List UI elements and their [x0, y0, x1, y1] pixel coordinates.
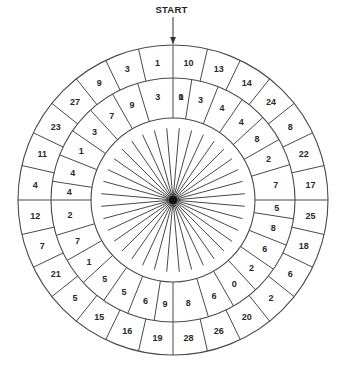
outer-ring-number: 3: [125, 64, 130, 74]
outer-ring-number: 4: [33, 180, 38, 190]
outer-ring-number: 10: [183, 58, 193, 68]
middle-ring-number: 9: [129, 100, 134, 110]
middle-ring-number: 2: [68, 210, 73, 220]
number-wheel-diagram: 1013142482217251862202628191615521712411…: [0, 0, 343, 370]
outer-ring-number: 11: [38, 149, 48, 159]
middle-ring-number: 6: [262, 244, 267, 254]
middle-ring-number: 4: [70, 168, 75, 178]
middle-ring-number: 1: [79, 146, 84, 156]
middle-ring-number: 8: [254, 134, 259, 144]
middle-ring-number: 3: [155, 92, 160, 102]
outer-ring-number: 1: [155, 58, 160, 68]
outer-ring-number: 25: [306, 211, 316, 221]
outer-ring-number: 14: [242, 78, 252, 88]
outer-ring-number: 17: [306, 180, 316, 190]
middle-ring-number: 1: [87, 257, 92, 267]
middle-ring-number: 5: [274, 203, 279, 213]
middle-ring-number: 5: [121, 287, 126, 297]
outer-ring-number: 21: [51, 269, 61, 279]
outer-ring-number: 12: [30, 211, 40, 221]
outer-ring-number: 26: [214, 326, 224, 336]
middle-ring-number: 6: [143, 296, 148, 306]
middle-ring-number: 2: [266, 154, 271, 164]
middle-ring-number: 0: [232, 279, 237, 289]
outer-ring-number: 24: [266, 97, 276, 107]
start-arrow-icon: [170, 17, 176, 44]
middle-ring-number: 1: [179, 92, 184, 102]
outer-ring-number: 22: [299, 149, 309, 159]
middle-ring-number: 4: [67, 187, 72, 197]
outer-ring-number: 23: [51, 122, 61, 132]
middle-ring-number: 7: [75, 236, 80, 246]
outer-ring-number: 7: [40, 241, 45, 251]
middle-ring-number: 8: [186, 298, 191, 308]
outer-ring-number: 8: [288, 122, 293, 132]
middle-ring-number: 3: [92, 127, 97, 137]
middle-ring-number: 4: [239, 117, 244, 127]
outer-ring-number: 9: [97, 78, 102, 88]
middle-ring-number: 3: [198, 95, 203, 105]
outer-ring-number: 19: [152, 333, 162, 343]
middle-ring-number: 4: [220, 103, 225, 113]
outer-ring-number: 20: [242, 312, 252, 322]
outer-ring-number: 5: [73, 293, 78, 303]
outer-ring-number: 18: [299, 241, 309, 251]
outer-ring-number: 13: [214, 64, 224, 74]
middle-ring-number: 6: [212, 291, 217, 301]
middle-ring-number: 7: [109, 111, 114, 121]
middle-ring-number: 2: [249, 263, 254, 273]
middle-ring-number: 5: [102, 274, 107, 284]
outer-ring-number: 16: [122, 326, 132, 336]
outer-ring-number: 6: [288, 269, 293, 279]
middle-ring-number: 7: [273, 180, 278, 190]
middle-ring-number: 9: [162, 299, 167, 309]
outer-ring-number: 2: [268, 293, 273, 303]
outer-ring-number: 27: [70, 97, 80, 107]
outer-ring-number: 28: [183, 333, 193, 343]
starburst-spokes: [101, 128, 244, 271]
hub-dot: [169, 196, 177, 204]
outer-ring-number: 15: [94, 312, 104, 322]
middle-ring-number: 8: [271, 223, 276, 233]
